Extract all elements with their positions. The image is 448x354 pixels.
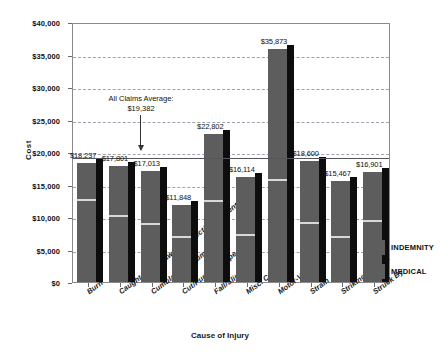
bar-value-label: $35,873 bbox=[261, 37, 287, 46]
legend-label: INDEMNITY bbox=[391, 243, 434, 252]
bar-segment-divider bbox=[141, 223, 160, 225]
bar-group[interactable] bbox=[236, 173, 262, 282]
gridline bbox=[73, 122, 389, 123]
bar-segment-divider bbox=[172, 236, 191, 238]
bar-segment-divider bbox=[300, 222, 319, 224]
bar-value-label: $22,802 bbox=[197, 122, 223, 131]
bar-group[interactable] bbox=[204, 130, 230, 282]
legend-swatch-icon bbox=[368, 240, 385, 255]
legend-item-indemnity: INDEMNITY bbox=[368, 240, 434, 255]
bar-segment-divider bbox=[77, 199, 96, 201]
legend: INDEMNITY MEDICAL bbox=[368, 240, 434, 288]
bar-body[interactable] bbox=[236, 177, 255, 282]
bar-group[interactable] bbox=[141, 167, 167, 282]
bar-shadow bbox=[350, 177, 357, 282]
bar-shadow bbox=[160, 167, 167, 282]
bar-body[interactable] bbox=[300, 161, 319, 282]
all-claims-average-annotation: All Claims Average: $19,382 bbox=[98, 94, 184, 113]
y-axis-tick-label: $0 bbox=[2, 279, 60, 288]
bar-shadow bbox=[191, 201, 198, 282]
y-axis-tick-label: $25,000 bbox=[2, 117, 60, 126]
bar-shadow bbox=[223, 130, 230, 282]
y-axis-tick-label: $10,000 bbox=[2, 214, 60, 223]
y-axis-tick-label: $40,000 bbox=[2, 19, 60, 28]
gridline bbox=[73, 57, 389, 58]
bar-body[interactable] bbox=[331, 181, 350, 282]
bar-chart: Cost $0$5,000$10,000$15,000$20,000$25,00… bbox=[0, 0, 448, 354]
bar-body[interactable] bbox=[141, 171, 160, 282]
bar-segment-divider bbox=[268, 179, 287, 181]
bar-group[interactable] bbox=[300, 157, 326, 282]
y-axis-tick-mark bbox=[68, 283, 72, 284]
bar-body[interactable] bbox=[77, 163, 96, 282]
annotation-arrow-icon bbox=[140, 115, 141, 150]
bar-value-label: $11,848 bbox=[165, 193, 191, 202]
bar-shadow bbox=[128, 162, 135, 282]
bar-value-label: $15,467 bbox=[324, 169, 350, 178]
bar-body[interactable] bbox=[172, 205, 191, 282]
bar-group[interactable] bbox=[268, 45, 294, 282]
plot-area bbox=[72, 23, 390, 283]
bar-segment-divider bbox=[109, 215, 128, 217]
y-axis-tick-label: $30,000 bbox=[2, 84, 60, 93]
y-axis-tick-label: $20,000 bbox=[2, 149, 60, 158]
bar-shadow bbox=[287, 45, 294, 282]
bar-value-label: $16,901 bbox=[356, 160, 382, 169]
bar-value-label: $17,801 bbox=[102, 154, 128, 163]
y-axis-tick-label: $5,000 bbox=[2, 247, 60, 256]
bar-group[interactable] bbox=[77, 159, 103, 282]
bar-shadow bbox=[255, 173, 262, 282]
bar-body[interactable] bbox=[204, 134, 223, 282]
bar-body[interactable] bbox=[268, 49, 287, 282]
legend-label: MEDICAL bbox=[391, 267, 427, 276]
bar-value-label: $18,600 bbox=[293, 149, 319, 158]
bar-value-label: $16,114 bbox=[229, 165, 255, 174]
bar-segment-divider bbox=[236, 234, 255, 236]
legend-swatch-icon bbox=[368, 264, 385, 279]
bar-group[interactable] bbox=[109, 162, 135, 282]
bar-value-label: $17,013 bbox=[134, 159, 160, 168]
annotation-line-1: All Claims Average: bbox=[98, 94, 184, 104]
bar-segment-divider bbox=[363, 220, 382, 222]
gridline bbox=[73, 89, 389, 90]
bar-group[interactable] bbox=[331, 177, 357, 282]
y-axis-tick-label: $15,000 bbox=[2, 182, 60, 191]
bar-segment-divider bbox=[331, 236, 350, 238]
x-axis-title: Cause of Injury bbox=[140, 331, 300, 340]
annotation-line-2: $19,382 bbox=[98, 104, 184, 114]
bar-group[interactable] bbox=[172, 201, 198, 282]
bar-value-label: $18,237 bbox=[70, 151, 96, 160]
bar-shadow bbox=[96, 159, 103, 282]
y-axis-tick-label: $35,000 bbox=[2, 52, 60, 61]
bar-body[interactable] bbox=[109, 166, 128, 282]
legend-item-medical: MEDICAL bbox=[368, 264, 434, 279]
bar-segment-divider bbox=[204, 200, 223, 202]
